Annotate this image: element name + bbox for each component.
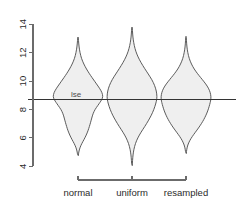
value-axis-tick-label: 4 bbox=[17, 164, 28, 169]
category-label-normal: normal bbox=[63, 187, 92, 198]
category-axis: normaluniformresampled bbox=[63, 176, 208, 199]
violin-resampled bbox=[161, 36, 211, 153]
category-label-resampled: resampled bbox=[164, 187, 208, 198]
category-label-uniform: uniform bbox=[116, 187, 148, 198]
violin-plot-figure: lse 468101214 normaluniformresampled bbox=[0, 0, 239, 213]
value-axis: 468101214 bbox=[17, 19, 33, 169]
violin-uniform bbox=[107, 27, 157, 166]
value-axis-tick-label: 10 bbox=[17, 76, 28, 87]
value-axis-tick-label: 14 bbox=[17, 19, 28, 30]
value-axis-tick-label: 6 bbox=[17, 135, 28, 140]
plot-canvas: lse 468101214 normaluniformresampled bbox=[0, 0, 239, 213]
value-axis-tick-label: 12 bbox=[17, 47, 28, 58]
lse-reference-label: lse bbox=[71, 90, 82, 99]
value-axis-tick-label: 8 bbox=[17, 107, 28, 112]
